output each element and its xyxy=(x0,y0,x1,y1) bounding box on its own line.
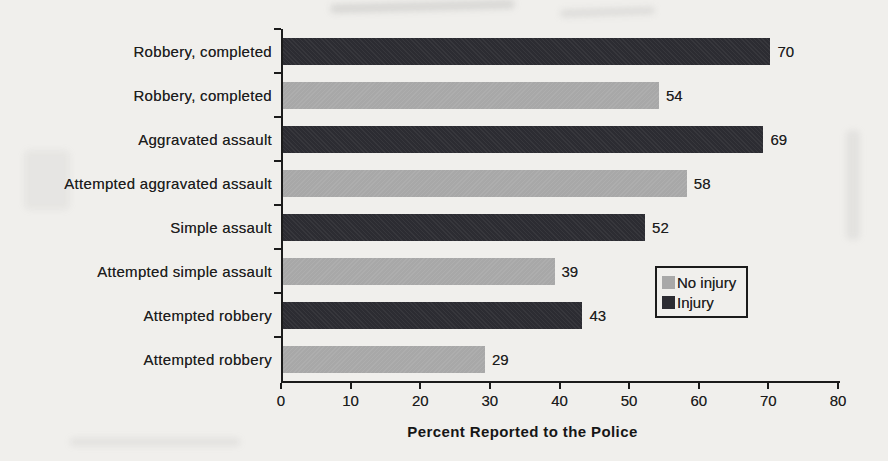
y-axis-tick xyxy=(274,28,281,30)
x-axis-tick xyxy=(698,383,700,389)
x-axis-tick xyxy=(837,383,839,389)
category-label: Attempted robbery xyxy=(0,293,272,337)
x-tick-label: 0 xyxy=(277,392,285,409)
x-axis-tick xyxy=(280,383,282,389)
bar-value-label: 43 xyxy=(589,307,606,324)
y-axis-tick xyxy=(274,72,281,74)
x-tick-label: 50 xyxy=(621,392,638,409)
legend-label: Injury xyxy=(677,294,714,311)
x-axis-tick xyxy=(628,383,630,389)
y-axis-tick xyxy=(274,292,281,294)
bar-value-label: 58 xyxy=(694,175,711,192)
x-tick-label: 60 xyxy=(690,392,707,409)
bar-value-label: 70 xyxy=(777,43,794,60)
y-axis-tick xyxy=(274,160,281,162)
x-tick-label: 40 xyxy=(551,392,568,409)
bar-injury xyxy=(283,302,582,329)
bar-no-injury xyxy=(283,258,555,285)
bar-row: 58 xyxy=(283,161,840,205)
x-axis-title: Percent Reported to the Police xyxy=(244,423,801,440)
horizontal-bar-chart: Robbery, completedRobbery, completedAggr… xyxy=(0,0,888,461)
x-axis: 01020304050607080 xyxy=(281,383,838,423)
bar-row: 54 xyxy=(283,73,840,117)
y-axis-tick xyxy=(274,116,281,118)
bar-injury xyxy=(283,38,770,65)
x-tick-label: 20 xyxy=(412,392,429,409)
x-tick-label: 70 xyxy=(760,392,777,409)
category-label: Robbery, completed xyxy=(0,73,272,117)
category-label: Simple assault xyxy=(0,205,272,249)
bar-value-label: 69 xyxy=(770,131,787,148)
x-tick-label: 80 xyxy=(830,392,847,409)
legend-swatch-injury xyxy=(662,296,675,309)
bar-no-injury xyxy=(283,346,485,373)
x-tick-label: 30 xyxy=(482,392,499,409)
bar-no-injury xyxy=(283,170,687,197)
bar-value-label: 52 xyxy=(652,219,669,236)
y-axis-tick xyxy=(274,248,281,250)
legend-swatch-no-injury xyxy=(662,276,675,289)
bar-no-injury xyxy=(283,82,659,109)
bar-row: 52 xyxy=(283,205,840,249)
x-axis-tick xyxy=(767,383,769,389)
y-axis-tick xyxy=(274,204,281,206)
bar-row: 39 xyxy=(283,249,840,293)
x-axis-tick xyxy=(489,383,491,389)
category-axis-labels: Robbery, completedRobbery, completedAggr… xyxy=(0,29,272,381)
plot-area: 7054695852394329 xyxy=(281,29,840,383)
category-label: Attempted simple assault xyxy=(0,249,272,293)
category-label: Attempted robbery xyxy=(0,337,272,381)
legend-label: No injury xyxy=(677,274,736,291)
bar-value-label: 54 xyxy=(666,87,683,104)
bar-row: 29 xyxy=(283,337,840,381)
x-axis-tick xyxy=(559,383,561,389)
y-axis-tick xyxy=(274,336,281,338)
x-tick-label: 10 xyxy=(342,392,359,409)
bar-row: 69 xyxy=(283,117,840,161)
bar-row: 70 xyxy=(283,29,840,73)
legend: No injuryInjury xyxy=(655,266,748,318)
legend-item: Injury xyxy=(662,294,741,311)
scanned-document-page: Robbery, completedRobbery, completedAggr… xyxy=(0,0,888,461)
bar-value-label: 29 xyxy=(492,351,509,368)
x-axis-tick xyxy=(350,383,352,389)
bar-injury xyxy=(283,214,645,241)
x-axis-tick xyxy=(419,383,421,389)
category-label: Aggravated assault xyxy=(0,117,272,161)
category-label: Robbery, completed xyxy=(0,29,272,73)
bar-injury xyxy=(283,126,763,153)
bar-value-label: 39 xyxy=(562,263,579,280)
bar-row: 43 xyxy=(283,293,840,337)
category-label: Attempted aggravated assault xyxy=(0,161,272,205)
legend-item: No injury xyxy=(662,274,741,291)
